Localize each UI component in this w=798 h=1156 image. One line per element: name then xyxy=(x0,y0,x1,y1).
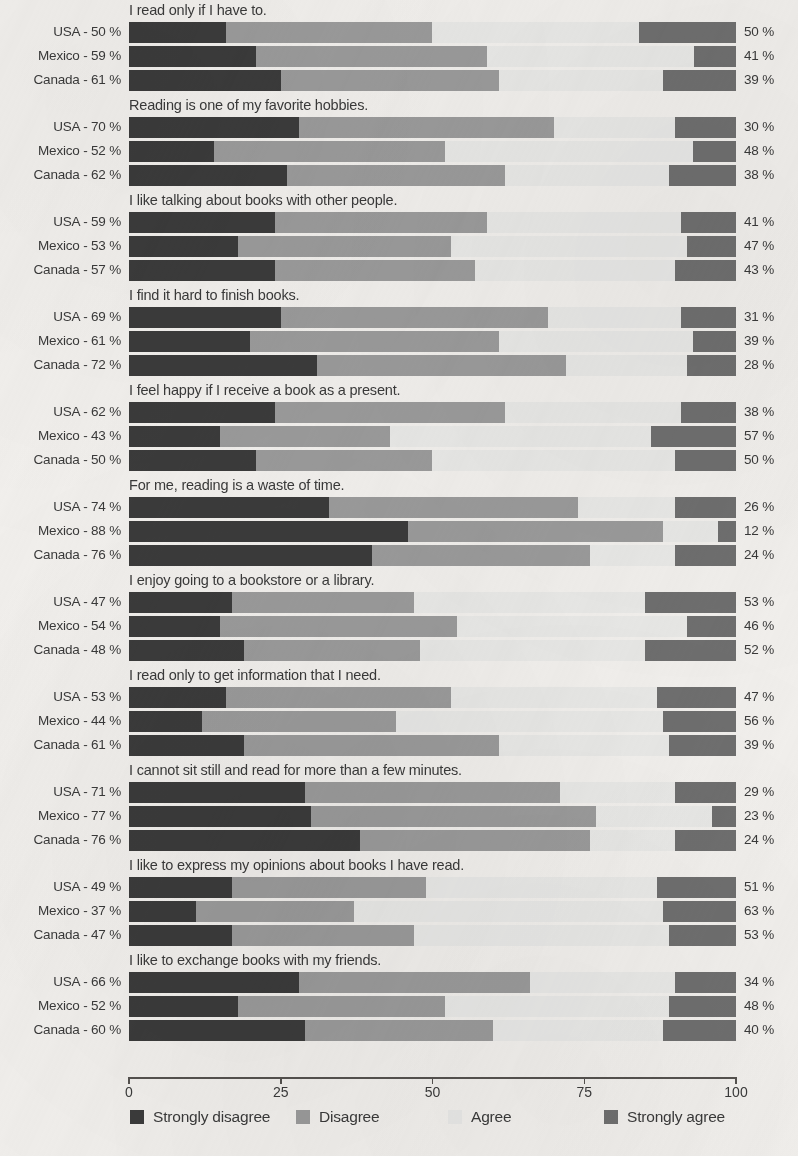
statement-text: I read only to get information that I ne… xyxy=(129,665,381,685)
country-rows: USA - 66 %34 %Mexico - 52 %48 %Canada - … xyxy=(0,971,798,1043)
row-left-label: Canada - 76 % xyxy=(0,829,121,851)
chart-legend: Strongly disagreeDisagreeAgreeStrongly a… xyxy=(0,1108,798,1138)
row-left-label: USA - 70 % xyxy=(0,116,121,138)
bar-segment-strongly-disagree xyxy=(129,141,214,162)
bar-segment-disagree xyxy=(232,592,414,613)
chart-row: Mexico - 37 %63 % xyxy=(0,900,798,924)
bar-segment-strongly-agree xyxy=(687,236,736,257)
row-right-label: 51 % xyxy=(744,876,774,898)
stacked-bar xyxy=(129,355,736,376)
country-rows: USA - 69 %31 %Mexico - 61 %39 %Canada - … xyxy=(0,306,798,378)
bar-segment-agree xyxy=(457,616,688,637)
stacked-bar xyxy=(129,901,736,922)
bar-segment-strongly-agree xyxy=(651,426,736,447)
bar-segment-disagree xyxy=(408,521,663,542)
stacked-bar xyxy=(129,687,736,708)
statement-group: I like to express my opinions about book… xyxy=(0,855,798,950)
bar-segment-strongly-disagree xyxy=(129,497,329,518)
row-left-label: Mexico - 77 % xyxy=(0,805,121,827)
row-left-label: Mexico - 53 % xyxy=(0,235,121,257)
bar-segment-strongly-agree xyxy=(675,972,736,993)
stacked-bar xyxy=(129,307,736,328)
legend-item-strongly-agree[interactable]: Strongly agree xyxy=(604,1108,725,1126)
row-left-label: Mexico - 61 % xyxy=(0,330,121,352)
bar-segment-agree xyxy=(451,687,657,708)
stacked-bar xyxy=(129,1020,736,1041)
bar-segment-strongly-disagree xyxy=(129,46,256,67)
bar-segment-disagree xyxy=(244,640,420,661)
legend-swatch-icon xyxy=(130,1110,144,1124)
bar-segment-disagree xyxy=(202,711,396,732)
stacked-bar xyxy=(129,616,736,637)
row-right-label: 41 % xyxy=(744,45,774,67)
bar-segment-disagree xyxy=(256,46,487,67)
statement-text: I feel happy if I receive a book as a pr… xyxy=(129,380,400,400)
bar-segment-agree xyxy=(487,212,681,233)
bar-segment-agree xyxy=(530,972,676,993)
statement-text: I enjoy going to a bookstore or a librar… xyxy=(129,570,374,590)
legend-item-agree[interactable]: Agree xyxy=(448,1108,511,1126)
stacked-bar xyxy=(129,117,736,138)
row-left-label: USA - 71 % xyxy=(0,781,121,803)
stacked-bar xyxy=(129,640,736,661)
chart-row: Mexico - 88 %12 % xyxy=(0,520,798,544)
row-right-label: 46 % xyxy=(744,615,774,637)
bar-segment-agree xyxy=(487,46,693,67)
bar-segment-strongly-agree xyxy=(675,117,736,138)
stacked-bar xyxy=(129,165,736,186)
bar-segment-disagree xyxy=(275,212,487,233)
legend-item-strongly-disagree[interactable]: Strongly disagree xyxy=(130,1108,270,1126)
legend-item-disagree[interactable]: Disagree xyxy=(296,1108,379,1126)
legend-label: Disagree xyxy=(319,1108,379,1126)
stacked-bar xyxy=(129,877,736,898)
bar-segment-disagree xyxy=(220,426,390,447)
bar-segment-agree xyxy=(420,640,645,661)
row-left-label: USA - 62 % xyxy=(0,401,121,423)
row-left-label: Canada - 76 % xyxy=(0,544,121,566)
bar-segment-strongly-disagree xyxy=(129,877,232,898)
chart-row: Canada - 50 %50 % xyxy=(0,449,798,473)
bar-segment-disagree xyxy=(238,236,450,257)
legend-label: Strongly agree xyxy=(627,1108,725,1126)
statement-group: I like to exchange books with my friends… xyxy=(0,950,798,1045)
row-left-label: Mexico - 54 % xyxy=(0,615,121,637)
bar-segment-agree xyxy=(451,236,688,257)
row-left-label: USA - 74 % xyxy=(0,496,121,518)
row-right-label: 56 % xyxy=(744,710,774,732)
legend-swatch-icon xyxy=(604,1110,618,1124)
stacked-bar xyxy=(129,521,736,542)
stacked-bar xyxy=(129,830,736,851)
axis-tick-label: 100 xyxy=(724,1084,747,1100)
bar-segment-agree xyxy=(414,925,669,946)
axis-tick-label: 75 xyxy=(576,1084,592,1100)
bar-segment-agree xyxy=(390,426,651,447)
statement-text: For me, reading is a waste of time. xyxy=(129,475,344,495)
bar-segment-strongly-agree xyxy=(675,545,736,566)
stacked-bar xyxy=(129,22,736,43)
bar-segment-disagree xyxy=(305,1020,493,1041)
row-left-label: Mexico - 37 % xyxy=(0,900,121,922)
stacked-bar xyxy=(129,972,736,993)
bar-segment-agree xyxy=(590,830,675,851)
row-left-label: Canada - 61 % xyxy=(0,69,121,91)
axis-tick xyxy=(584,1077,586,1084)
country-rows: USA - 53 %47 %Mexico - 44 %56 %Canada - … xyxy=(0,686,798,758)
stacked-bar xyxy=(129,711,736,732)
bar-segment-disagree xyxy=(214,141,445,162)
bar-segment-agree xyxy=(499,735,669,756)
bar-segment-strongly-agree xyxy=(712,806,736,827)
bar-segment-strongly-agree xyxy=(675,830,736,851)
bar-segment-strongly-disagree xyxy=(129,426,220,447)
bar-segment-strongly-disagree xyxy=(129,402,275,423)
bar-segment-disagree xyxy=(329,497,578,518)
row-left-label: Mexico - 88 % xyxy=(0,520,121,542)
row-right-label: 47 % xyxy=(744,235,774,257)
bar-segment-agree xyxy=(505,165,669,186)
bar-segment-strongly-agree xyxy=(663,1020,736,1041)
stacked-bar xyxy=(129,402,736,423)
bar-segment-disagree xyxy=(226,22,432,43)
bar-segment-strongly-disagree xyxy=(129,117,299,138)
row-left-label: Canada - 72 % xyxy=(0,354,121,376)
bar-segment-disagree xyxy=(299,117,554,138)
statement-group: I feel happy if I receive a book as a pr… xyxy=(0,380,798,475)
